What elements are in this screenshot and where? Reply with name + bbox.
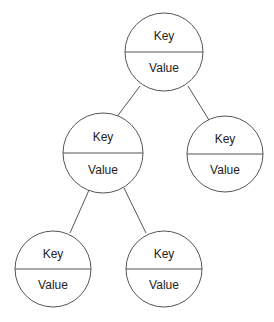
binary-tree-diagram: KeyValueKeyValueKeyValueKeyValueKeyValue bbox=[0, 0, 274, 322]
node-value-label: Value bbox=[88, 163, 118, 177]
edge-root-right bbox=[188, 86, 209, 120]
node-value-label: Value bbox=[210, 163, 240, 177]
tree-node-left-left: KeyValue bbox=[15, 231, 91, 307]
node-key-label: Key bbox=[43, 247, 64, 261]
node-key-label: Key bbox=[215, 132, 236, 146]
node-key-label: Key bbox=[154, 247, 175, 261]
node-value-label: Value bbox=[149, 278, 179, 292]
tree-node-right: KeyValue bbox=[187, 116, 263, 192]
node-value-label: Value bbox=[149, 61, 179, 75]
tree-node-left: KeyValue bbox=[63, 113, 143, 193]
edge-left-left-left bbox=[70, 190, 89, 233]
node-key-label: Key bbox=[154, 29, 175, 43]
node-key-label: Key bbox=[93, 130, 114, 144]
tree-node-root: KeyValue bbox=[125, 13, 203, 91]
edge-root-left bbox=[116, 86, 140, 118]
node-value-label: Value bbox=[38, 278, 68, 292]
tree-node-left-right: KeyValue bbox=[126, 231, 202, 307]
edge-left-left-right bbox=[124, 188, 146, 233]
